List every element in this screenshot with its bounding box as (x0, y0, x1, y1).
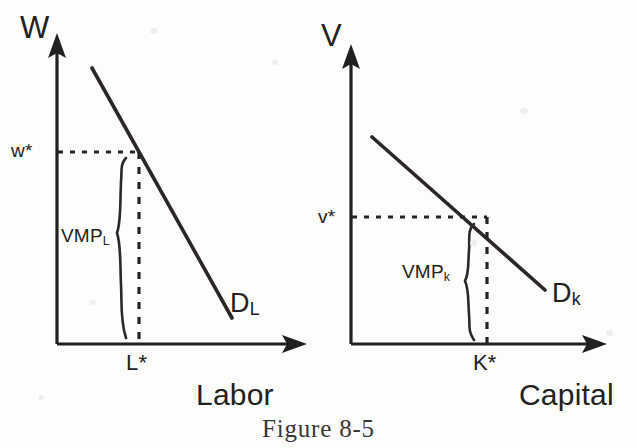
labor-wage-tick-label: w* (11, 140, 33, 162)
capital-demand-curve-label: Dk (552, 278, 581, 309)
labor-panel-graphics (0, 0, 320, 415)
figure-container: W w* VMPL DL L* Labor V v* VMPk D (0, 0, 637, 448)
capital-vmp-label-base: VMP (402, 261, 444, 282)
capital-vmp-brace (465, 224, 474, 340)
labor-demand-label-base: D (230, 288, 250, 318)
labor-quantity-tick-label: L* (126, 350, 147, 376)
labor-x-axis-title: Labor (196, 378, 274, 412)
capital-rental-tick-label: v* (318, 206, 335, 228)
labor-vmp-brace (117, 158, 126, 338)
capital-y-axis-title: V (321, 18, 342, 54)
capital-demand-label-sub: k (572, 289, 581, 309)
capital-demand-label-base: D (552, 278, 572, 308)
capital-x-axis-title: Capital (519, 378, 614, 412)
labor-demand-label-sub: L (250, 299, 260, 319)
capital-market-panel: V v* VMPk Dk K* Capital (310, 0, 637, 448)
capital-demand-curve (372, 137, 545, 290)
labor-vmp-label-sub: L (103, 234, 110, 248)
capital-vmp-label-sub: k (444, 270, 450, 284)
labor-market-panel: W w* VMPL DL L* Labor (0, 0, 320, 448)
labor-demand-curve (92, 68, 232, 318)
labor-vmp-label: VMPL (61, 225, 110, 247)
labor-y-axis-title: W (20, 10, 49, 46)
capital-vmp-label: VMPk (402, 261, 450, 283)
capital-quantity-tick-label: K* (473, 350, 497, 376)
labor-vmp-label-base: VMP (61, 225, 103, 246)
figure-caption: Figure 8-5 (0, 415, 637, 443)
labor-demand-curve-label: DL (230, 288, 260, 319)
